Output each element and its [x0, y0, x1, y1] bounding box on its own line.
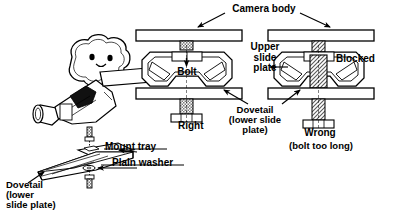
- camera-tripod-screw: [85, 127, 94, 146]
- diagram-svg: [0, 0, 398, 219]
- mount-bolt-shank: [87, 179, 92, 188]
- mount-bolt-head: [85, 175, 94, 179]
- camcorder-illustration: [33, 35, 161, 125]
- label-bolt: Bolt: [172, 67, 202, 78]
- plain-washer-and-bolt: [83, 165, 95, 188]
- wrong-lower-slide-plate: [268, 88, 374, 99]
- wrong-camera-body-plate: [268, 30, 374, 41]
- leader-camera-body-right: [300, 13, 330, 27]
- camera-side-panel: [60, 104, 72, 120]
- label-dovetail-center: Dovetail (lower slide plate): [218, 105, 292, 135]
- right-lower-slide-plate: [136, 88, 242, 99]
- right-camera-body-plate: [136, 30, 242, 41]
- label-wrong-note: (bolt too long): [286, 141, 356, 151]
- label-dovetail-left: Dovetail (lower slide plate): [6, 180, 56, 210]
- label-upper-slide-plate: Upper slide plate: [243, 42, 287, 74]
- camera-eye-left: [89, 54, 94, 60]
- plain-washer-hole: [87, 167, 91, 169]
- camera-eye-right: [107, 55, 112, 61]
- label-plain-washer: Plain washer: [112, 158, 173, 169]
- figure-canvas: Camera body Upper slide plate Bolt Block…: [0, 0, 398, 219]
- label-camera-body: Camera body: [228, 4, 300, 15]
- leader-camera-body-left: [198, 13, 225, 27]
- label-blocked: Blocked: [336, 54, 375, 65]
- label-wrong: Wrong: [296, 128, 344, 139]
- camera-lens-inner: [35, 108, 40, 120]
- label-right: Right: [178, 121, 204, 132]
- label-mount-tray: Mount tray: [105, 142, 156, 153]
